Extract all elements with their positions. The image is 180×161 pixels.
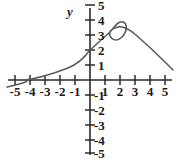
x-tick-label: -3 [40,84,51,99]
y-tick-label: 5 [98,0,105,13]
graph-figure: y -5 -4 -3 -2 -1 1 2 3 4 5 5 4 3 2 1 -1 … [0,0,180,161]
x-tick-label: 2 [117,84,124,99]
y-tick-label: -1 [94,88,105,103]
x-tick-label: -5 [10,84,21,99]
x-tick-label: 4 [147,84,154,99]
x-tick-label: -4 [25,84,36,99]
coordinate-plane: y -5 -4 -3 -2 -1 1 2 3 4 5 5 4 3 2 1 -1 … [0,0,180,161]
y-tick-label: -5 [94,146,105,161]
x-tick-label: 3 [132,84,139,99]
y-tick-label: -2 [94,103,105,118]
y-tick-label: 4 [98,13,105,28]
x-tick-label: -1 [70,84,81,99]
x-tick-label: -2 [55,84,66,99]
y-tick-label: -3 [94,118,105,133]
x-tick-label: 5 [162,84,169,99]
y-axis-label: y [65,4,73,19]
y-tick-label: 3 [98,28,105,43]
y-tick-label: 1 [98,58,105,73]
y-tick-label: 2 [98,43,105,58]
x-axis-tick-labels: -5 -4 -3 -2 -1 1 2 3 4 5 [10,84,169,99]
